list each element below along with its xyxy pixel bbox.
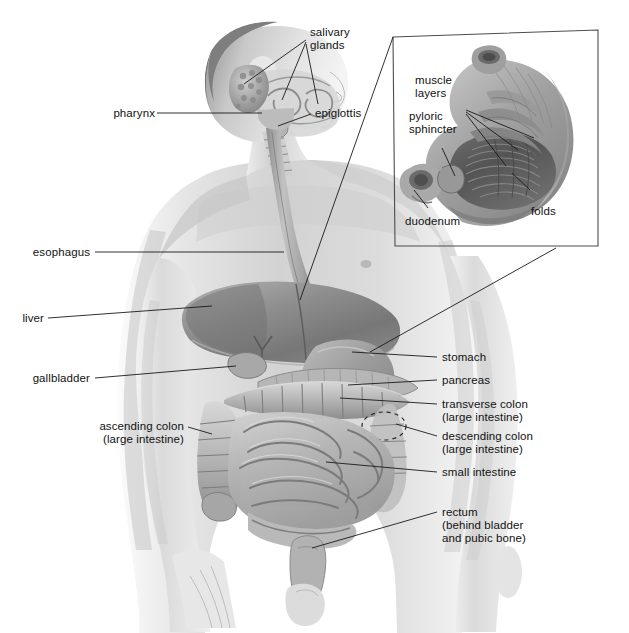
- label-liver: liver: [0, 312, 44, 325]
- label-folds: folds: [531, 205, 556, 218]
- label-rectum: rectum (behind bladder and pubic bone): [442, 506, 526, 545]
- label-muscle-layers: muscle layers: [415, 74, 452, 100]
- label-gallbladder: gallbladder: [0, 372, 90, 385]
- label-pyloric-sphincter: pyloric sphincter: [409, 110, 457, 136]
- label-ascending-colon: ascending colon (large intestine): [20, 420, 184, 446]
- label-esophagus: esophagus: [0, 246, 90, 259]
- label-pharynx: pharynx: [20, 107, 155, 120]
- label-pancreas: pancreas: [442, 374, 490, 387]
- label-duodenum: duodenum: [405, 215, 460, 228]
- label-transverse-colon: transverse colon (large intestine): [442, 398, 528, 424]
- digestive-system-figure: salivary glands pharynx epiglottis esoph…: [0, 0, 629, 633]
- label-epiglottis: epiglottis: [315, 107, 361, 120]
- label-salivary-glands: salivary glands: [310, 26, 350, 52]
- label-stomach: stomach: [442, 351, 486, 364]
- label-descending-colon: descending colon (large intestine): [442, 430, 533, 456]
- rectum-organ: [285, 536, 325, 626]
- label-small-intestine: small intestine: [442, 466, 516, 479]
- anatomy-artboard: [0, 0, 629, 633]
- small-intestine-organ: [228, 412, 395, 549]
- gallbladder-organ: [228, 353, 266, 379]
